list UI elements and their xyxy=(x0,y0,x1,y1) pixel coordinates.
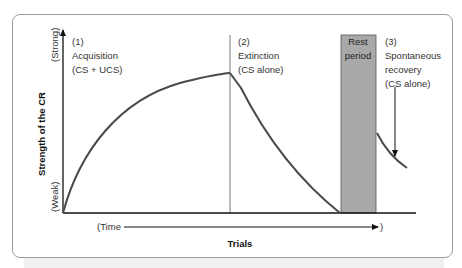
phase2-name: Extinction xyxy=(238,50,279,61)
time-open-label: (Time xyxy=(97,221,121,232)
rest-period-bar xyxy=(341,35,376,213)
rest-label-line2: period xyxy=(345,50,371,61)
recovery-curve xyxy=(377,133,407,168)
rest-label-line1: Rest xyxy=(348,36,368,47)
phase3-condition: (CS alone) xyxy=(385,78,430,89)
phase3-number: (3) xyxy=(385,36,397,47)
y-bottom-label: (Weak) xyxy=(49,182,60,212)
phase3-name2: recovery xyxy=(385,64,422,75)
phase2-number: (2) xyxy=(238,36,250,47)
phase1-number: (1) xyxy=(72,36,84,47)
phase1-name: Acquisition xyxy=(72,50,118,61)
conditioning-diagram: (Strong) (Weak) Strength of the CR (1) A… xyxy=(0,0,462,268)
acquisition-curve xyxy=(63,73,230,213)
phase2-condition: (CS alone) xyxy=(238,64,283,75)
phase1-condition: (CS + UCS) xyxy=(72,64,122,75)
time-close-label: ) xyxy=(380,221,383,232)
y-axis-label: Strength of the CR xyxy=(36,92,47,176)
y-top-label: (Strong) xyxy=(49,28,60,62)
phase3-name: Spontaneous xyxy=(385,50,441,61)
x-axis-label: Trials xyxy=(228,238,253,249)
extinction-curve xyxy=(230,73,340,213)
